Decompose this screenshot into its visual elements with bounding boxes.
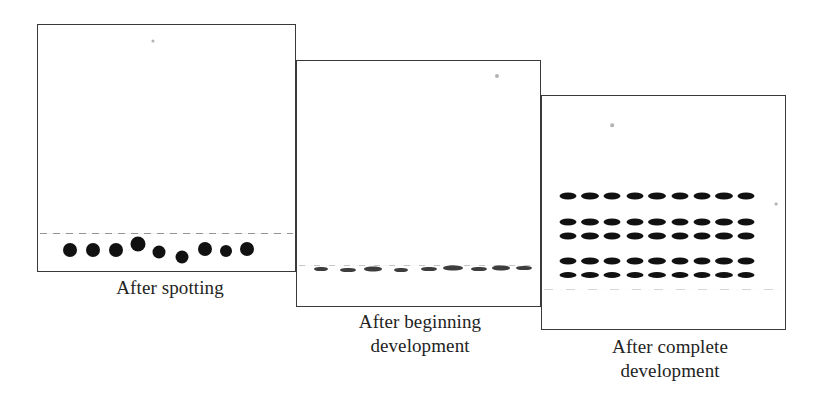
streak-8 (492, 266, 510, 271)
band-r3-c3 (604, 233, 621, 240)
band-r2-c4 (627, 219, 644, 226)
band-r3-c4 (627, 233, 644, 240)
streak-4 (394, 268, 408, 272)
paper-speck-3 (610, 123, 614, 127)
band-r1-c8 (715, 193, 733, 200)
band-r2-c3 (604, 219, 621, 226)
origin-line-after-spotting (40, 233, 293, 234)
caption-after-spotting: After spotting (65, 276, 275, 300)
streak-5 (421, 267, 437, 271)
band-r4-c9 (738, 258, 755, 265)
caption-after-complete-development: After complete development (565, 335, 775, 384)
band-r5-c7 (694, 272, 711, 278)
band-r1-c6 (672, 193, 689, 200)
band-r1-c5 (648, 193, 666, 200)
band-r3-c9 (738, 233, 755, 240)
band-r4-c6 (672, 258, 689, 265)
band-r5-c6 (672, 272, 689, 278)
streak-1 (314, 267, 328, 271)
band-r1-c7 (694, 193, 711, 200)
band-r1-c2 (581, 193, 599, 200)
band-r2-c6 (672, 219, 689, 226)
band-r3-c5 (648, 233, 666, 240)
plate-after-complete-development (541, 95, 786, 330)
band-r2-c1 (560, 219, 577, 226)
spot-3 (109, 243, 123, 257)
band-r2-c8 (715, 219, 733, 226)
band-r1-c3 (604, 193, 621, 200)
caption-after-beginning-development: After beginning development (315, 310, 525, 359)
band-r2-c9 (738, 219, 755, 226)
plate-after-beginning-development (296, 60, 541, 307)
spot-4 (131, 237, 146, 252)
paper-speck-4 (775, 203, 778, 206)
band-r4-c3 (604, 258, 621, 265)
band-r5-c3 (604, 272, 621, 278)
band-r3-c7 (694, 233, 711, 240)
band-r2-c7 (694, 219, 711, 226)
spot-2 (86, 243, 100, 257)
band-r3-c6 (672, 233, 689, 240)
band-r1-c9 (738, 193, 755, 200)
band-r5-c1 (560, 272, 577, 278)
streak-2 (340, 268, 356, 272)
streak-6 (443, 266, 463, 271)
band-r4-c2 (581, 258, 599, 265)
streak-7 (471, 267, 487, 271)
spot-9 (240, 242, 254, 256)
band-r5-c4 (627, 272, 644, 278)
band-r4-c1 (560, 258, 577, 265)
paper-speck-2 (495, 74, 499, 78)
band-r4-c7 (694, 258, 711, 265)
band-r4-c4 (627, 258, 644, 265)
band-r5-c8 (715, 272, 733, 278)
band-r4-c5 (648, 258, 666, 265)
band-r3-c1 (560, 233, 577, 240)
streak-9 (516, 266, 532, 270)
band-r5-c9 (738, 272, 755, 278)
band-r4-c8 (715, 258, 733, 265)
band-r5-c5 (648, 272, 666, 278)
band-r5-c2 (581, 272, 599, 278)
band-r1-c1 (560, 193, 577, 200)
plate-after-spotting (37, 24, 296, 272)
streak-3 (364, 267, 382, 272)
band-r2-c2 (581, 219, 599, 226)
band-r1-c4 (627, 193, 644, 200)
origin-line-after-complete-development (544, 289, 783, 290)
band-r3-c2 (581, 233, 599, 240)
band-r2-c5 (648, 219, 666, 226)
spot-7 (198, 242, 212, 256)
spot-8 (220, 245, 232, 257)
spot-5 (153, 246, 166, 259)
band-r3-c8 (715, 233, 733, 240)
spot-1 (63, 243, 77, 257)
chromatography-figure: After spottingAfter beginning developmen… (0, 0, 824, 407)
spot-6 (176, 251, 189, 264)
